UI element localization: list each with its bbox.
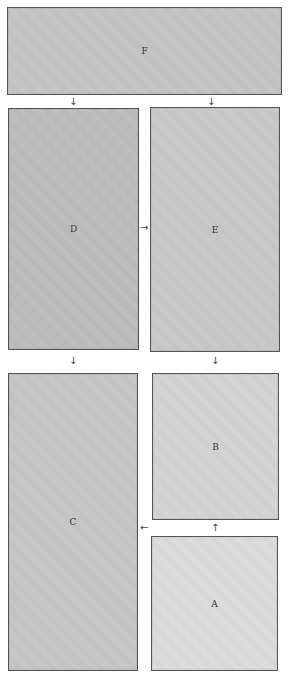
arrow-d-to-c: ↓ bbox=[69, 356, 77, 366]
panel-d-label: D bbox=[70, 224, 77, 234]
arrow-d-to-e: → bbox=[140, 223, 148, 233]
panel-a-label: A bbox=[211, 599, 218, 609]
arrow-a-to-c: ← bbox=[140, 523, 148, 533]
panel-b-label: B bbox=[212, 442, 219, 452]
panel-c: C bbox=[8, 373, 138, 671]
panel-c-label: C bbox=[70, 517, 77, 527]
panel-a: A bbox=[151, 536, 278, 671]
arrow-e-to-b: ↓ bbox=[211, 356, 219, 366]
panel-e-label: E bbox=[212, 225, 219, 235]
panel-e: E bbox=[150, 107, 280, 352]
arrow-f-to-d: ↓ bbox=[69, 97, 77, 107]
panel-d: D bbox=[8, 108, 139, 350]
panel-b: B bbox=[152, 373, 279, 520]
arrow-a-to-b: ↑ bbox=[211, 523, 219, 533]
panel-f: F bbox=[7, 7, 282, 95]
arrow-f-to-e: ↓ bbox=[207, 97, 215, 107]
panel-f-label: F bbox=[141, 46, 147, 56]
